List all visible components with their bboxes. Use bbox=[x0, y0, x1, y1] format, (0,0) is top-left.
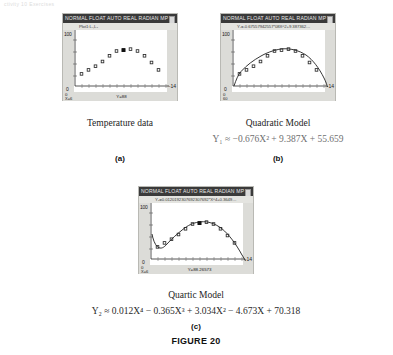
trace-value-c: Y=88.26573 bbox=[188, 267, 212, 272]
equation-line-b: Y₁=-0.67557942557*08X^2+9.387362… bbox=[221, 23, 335, 30]
caption-a: Temperature data bbox=[52, 118, 188, 128]
status-bar-text-c: NORMAL FLOAT AUTO REAL RADIAN MP bbox=[141, 188, 244, 194]
x-axis-max-label-b: -14 bbox=[327, 83, 334, 89]
status-bar-text-b: NORMAL FLOAT AUTO REAL RADIAN MP bbox=[223, 15, 326, 21]
status-bar-a: NORMAL FLOAT AUTO REAL RADIAN MP bbox=[63, 14, 177, 23]
plot-area-b: 100 0 bbox=[221, 30, 335, 92]
figure-label: FIGURE 20 bbox=[128, 336, 264, 346]
calculator-screen-quartic-model[interactable]: NORMAL FLOAT AUTO REAL RADIAN MP Y₂=0.01… bbox=[138, 186, 254, 274]
faint-page-header: ctivity 10 Exercises bbox=[4, 1, 55, 7]
scatter-plot-a bbox=[63, 30, 177, 92]
trace-cursor-c bbox=[198, 221, 202, 225]
plot-label-a: Plot1:L₁,L₂ bbox=[63, 23, 177, 30]
x-trace-label-c: X=6 bbox=[141, 269, 148, 274]
letter-label-a: (a) bbox=[52, 154, 188, 163]
x-axis-max-label-c: -14 bbox=[245, 256, 252, 262]
battery-icon-c bbox=[245, 189, 251, 197]
x-axis-max-label-a: -14 bbox=[169, 83, 176, 89]
data-point-markers-c bbox=[156, 221, 236, 248]
quartic-plot-c bbox=[139, 203, 253, 265]
status-bar-b: NORMAL FLOAT AUTO REAL RADIAN MP bbox=[221, 14, 335, 23]
caption-c: Quartic Model bbox=[128, 290, 264, 300]
plot-area-c: 100 0 bbox=[139, 203, 253, 265]
status-bar-text-a: NORMAL FLOAT AUTO REAL RADIAN MP bbox=[65, 15, 168, 21]
trace-cursor-a bbox=[122, 48, 126, 52]
plot-area-a: 100 0 bbox=[63, 30, 177, 92]
footer-a: 0 X=6 -14 Y=88 bbox=[63, 92, 177, 101]
footer-c: 0 X=6 -14 Y=88.26573 bbox=[139, 265, 253, 274]
battery-icon-a bbox=[169, 16, 175, 24]
equation-line-c: Y₂=0.0120192307692307692*X^4+0.3649… bbox=[139, 196, 253, 203]
quadratic-curve bbox=[234, 49, 328, 87]
calculator-screen-quadratic-model[interactable]: NORMAL FLOAT AUTO REAL RADIAN MP Y₁=-0.6… bbox=[220, 13, 336, 101]
letter-label-b: (b) bbox=[210, 154, 346, 163]
footer-b: 0 60 -14 bbox=[221, 92, 335, 101]
data-point-markers-a bbox=[80, 48, 160, 75]
letter-label-c: (c) bbox=[128, 322, 264, 331]
quadratic-plot-b bbox=[221, 30, 335, 92]
battery-icon-b bbox=[327, 16, 333, 24]
status-bar-c: NORMAL FLOAT AUTO REAL RADIAN MP bbox=[139, 187, 253, 196]
trace-value-a: Y=88 bbox=[116, 94, 126, 99]
caption-b: Quadratic Model bbox=[210, 118, 346, 128]
equation-caption-c: Y₂ ≈ 0.012X⁴ − 0.365X³ + 3.034X² − 4.673… bbox=[36, 306, 356, 316]
equation-caption-b: Y₁ ≈ −0.676X² + 9.387X + 55.659 bbox=[198, 134, 358, 144]
data-point-markers-b bbox=[238, 48, 318, 75]
x-trace-label-a: X=6 bbox=[65, 96, 72, 101]
calculator-screen-temperature-data[interactable]: NORMAL FLOAT AUTO REAL RADIAN MP Plot1:L… bbox=[62, 13, 178, 101]
x-trace-label-b: 60 bbox=[223, 96, 227, 101]
